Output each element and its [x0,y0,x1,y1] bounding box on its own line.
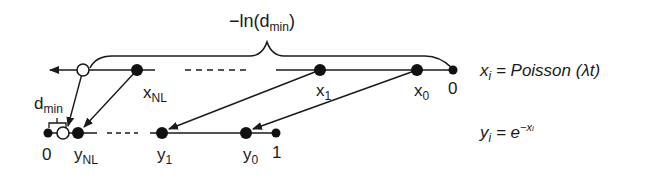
arrow-x0-to-y0 [253,70,417,129]
equation-y-exp-main: −x [520,121,532,133]
equation-y-lhs: y [480,123,489,142]
brace-label: −ln(dmin) [229,12,295,33]
label-x-1-sub: 1 [325,89,332,103]
brace-label-close: ) [289,11,295,31]
point-y-0 [240,127,252,139]
point-bottom-zero [44,129,53,138]
equation-x-rhs: = Poisson (λt) [491,61,600,80]
label-x-NL: xNL [143,84,167,104]
label-y-0-main: y [243,145,252,164]
point-y-1 [156,127,168,139]
point-top-zero [449,66,458,75]
label-bottom-zero: 0 [42,146,51,163]
point-x-NL [131,64,143,76]
label-y-NL: yNL [74,146,98,166]
label-x-0-sub: 0 [423,89,430,103]
point-x-0 [411,64,423,76]
equation-x: xi = Poisson (λt) [480,62,600,82]
point-one [272,129,281,138]
label-y-0-sub: 0 [252,153,259,167]
point-dmin-open [57,127,69,139]
equation-y-exponent: −xi [520,121,534,133]
label-x-0: x0 [414,82,429,102]
label-x-NL-main: x [143,83,152,102]
label-x-NL-sub: NL [152,91,167,105]
brace-label-main: −ln(d [229,11,270,31]
label-y-1-sub: 1 [166,153,173,167]
equation-y-rhs: = e [491,123,520,142]
point-y-NL [72,127,84,139]
arrow-open-to-dmin [68,70,83,126]
label-x-0-main: x [414,81,423,100]
arrow-x1-to-y1 [169,70,320,129]
label-y-NL-sub: NL [83,153,98,167]
label-y-1: y1 [157,146,172,166]
label-top-zero: 0 [448,80,457,97]
label-x-1: x1 [316,82,331,102]
label-y-0: y0 [243,146,258,166]
equation-y: yi = e−xi [480,122,534,144]
arrow-xNL-to-yNL [84,70,137,127]
top-open-point [77,64,89,76]
brace-label-sub: min [270,20,289,34]
label-dmin: dmin [34,95,63,115]
brace [90,42,452,68]
label-y-NL-main: y [74,145,83,164]
label-one: 1 [272,144,281,161]
equation-y-exp-sub: i [532,124,534,133]
label-x-1-main: x [316,81,325,100]
label-y-1-main: y [157,145,166,164]
point-x-1 [314,64,326,76]
equation-x-lhs: x [480,61,489,80]
label-dmin-sub: min [43,102,62,116]
